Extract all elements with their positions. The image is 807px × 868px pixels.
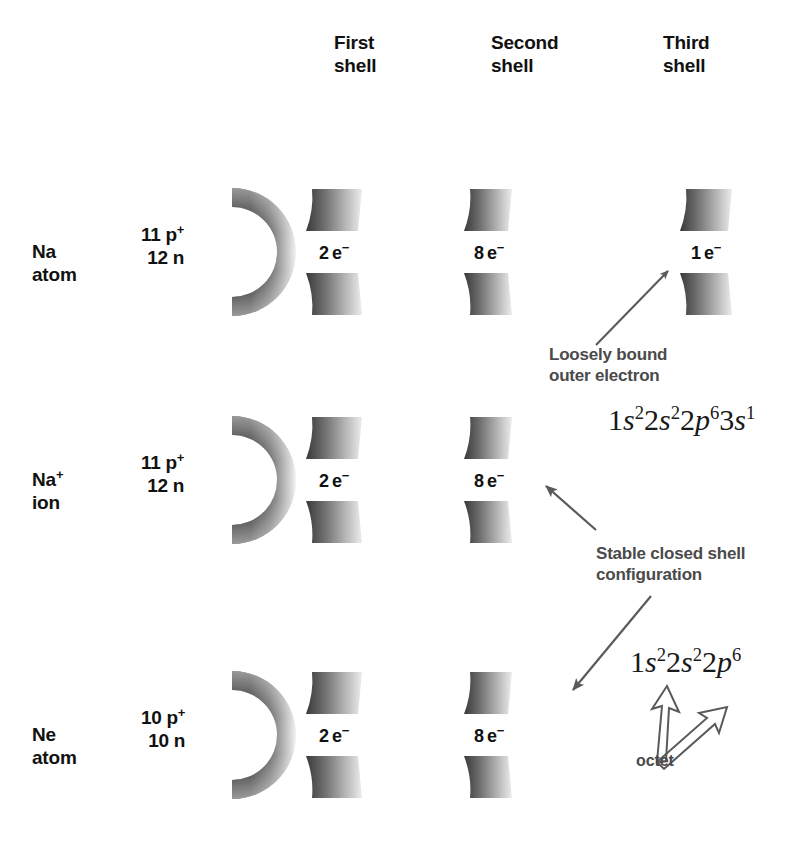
- neutron-count-na-atom: 12 n: [147, 247, 184, 268]
- charge: −: [497, 723, 504, 738]
- unit: e: [332, 243, 342, 263]
- annotation-stable-closed-shell-configuration: Stable closed shell configuration: [596, 543, 745, 585]
- charge: −: [497, 468, 504, 483]
- row-species-na-atom: Na: [32, 241, 56, 262]
- electron-count-ne-atom-first: 2 e−: [319, 726, 349, 746]
- proton-count-na-ion: 11 p: [141, 452, 177, 473]
- unit: e: [487, 243, 497, 263]
- row-state-ne-atom: atom: [32, 747, 77, 768]
- unit: e: [704, 243, 714, 263]
- column-header-third-shell: Third shell: [663, 31, 710, 77]
- nucleus-ne-atom: [232, 671, 296, 799]
- column-header-second-shell: Second shell: [491, 31, 558, 77]
- nucleus-label-ne-atom: 10 p+10 n: [141, 706, 185, 752]
- nucleus-na-ion: [232, 416, 296, 544]
- electron-count-na-atom-first: 2 e−: [319, 243, 349, 263]
- neutron-count-ne-atom: 10 n: [148, 730, 185, 751]
- arrow-loose-electron: [596, 271, 668, 345]
- column-header-first-shell: First shell: [334, 31, 376, 77]
- annotation-loosely-bound-outer-electron: Loosely bound outer electron: [549, 344, 667, 386]
- proton-charge-ne-atom: +: [178, 705, 185, 720]
- charge: −: [342, 468, 349, 483]
- value: 2: [319, 726, 329, 746]
- electron-count-na-ion-second: 8 e−: [474, 471, 504, 491]
- proton-count-ne-atom: 10 p: [141, 707, 178, 728]
- neutron-count-na-ion: 12 n: [147, 475, 184, 496]
- row-label-ne-atom: Neatom: [32, 723, 77, 769]
- unit: e: [487, 471, 497, 491]
- value: 8: [474, 471, 484, 491]
- electron-count-na-atom-second: 8 e−: [474, 243, 504, 263]
- row-graphics-na-atom: [232, 188, 732, 345]
- row-species-na-ion: Na: [32, 469, 56, 490]
- value: 8: [474, 726, 484, 746]
- nucleus-na-atom: [232, 188, 296, 316]
- electron-configuration-ne-like: 1s22s22p6: [630, 645, 741, 679]
- row-species-ne-atom: Ne: [32, 724, 56, 745]
- row-label-na-atom: Naatom: [32, 240, 77, 286]
- nucleus-label-na-ion: 11 p+12 n: [141, 451, 184, 497]
- charge: −: [714, 240, 721, 255]
- value: 2: [319, 471, 329, 491]
- figure-canvas: First shell Second shell Third shell Naa…: [0, 0, 807, 868]
- electron-count-na-atom-third: 1 e−: [691, 243, 721, 263]
- value: 8: [474, 243, 484, 263]
- nucleus-label-na-atom: 11 p+12 n: [141, 223, 184, 269]
- proton-charge-na-ion: +: [177, 450, 184, 465]
- electron-configuration-na-atom: 1s22s22p63s1: [608, 403, 755, 437]
- annotation-octet: octet: [636, 751, 674, 770]
- proton-count-na-atom: 11 p: [141, 224, 177, 245]
- unit: e: [332, 471, 342, 491]
- row-state-na-atom: atom: [32, 264, 77, 285]
- proton-charge-na-atom: +: [177, 222, 184, 237]
- charge: −: [342, 723, 349, 738]
- unit: e: [332, 726, 342, 746]
- row-state-na-ion: ion: [32, 492, 60, 513]
- charge: −: [342, 240, 349, 255]
- value: 1: [691, 243, 701, 263]
- charge: −: [497, 240, 504, 255]
- row-label-na-ion: Na+ion: [32, 468, 63, 514]
- row-graphics-na-ion: [232, 416, 596, 544]
- electron-count-na-ion-first: 2 e−: [319, 471, 349, 491]
- arrow-stable-shell-na-ion: [546, 486, 596, 530]
- value: 2: [319, 243, 329, 263]
- row-species-charge-na-ion: +: [56, 467, 63, 482]
- unit: e: [487, 726, 497, 746]
- electron-count-ne-atom-second: 8 e−: [474, 726, 504, 746]
